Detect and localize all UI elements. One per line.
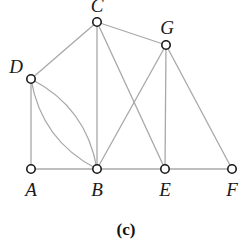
edges-group — [31, 22, 232, 169]
edge-G-B — [97, 45, 166, 169]
node-label-E: E — [158, 179, 171, 200]
edge-G-E — [165, 45, 166, 169]
node-label-B: B — [91, 179, 103, 200]
node-B — [93, 165, 101, 173]
edge-D-B — [31, 79, 97, 169]
edge-C-G — [97, 22, 166, 45]
edge-C-E — [97, 22, 165, 169]
node-D — [27, 75, 35, 83]
node-label-C: C — [91, 0, 104, 16]
edge-G-F — [166, 45, 232, 169]
edge-D-C — [31, 22, 97, 79]
edge-D-B — [31, 79, 97, 169]
node-label-G: G — [160, 17, 174, 38]
node-E — [161, 165, 169, 173]
labels-group: ABEFDCG — [8, 0, 238, 200]
node-C — [93, 18, 101, 26]
node-G — [162, 41, 170, 49]
node-label-F: F — [225, 179, 238, 200]
node-label-D: D — [8, 56, 23, 77]
graph-diagram: ABEFDCG (c) — [0, 0, 244, 240]
node-label-A: A — [23, 179, 37, 200]
node-F — [228, 165, 236, 173]
figure-caption: (c) — [117, 220, 136, 239]
node-A — [27, 165, 35, 173]
